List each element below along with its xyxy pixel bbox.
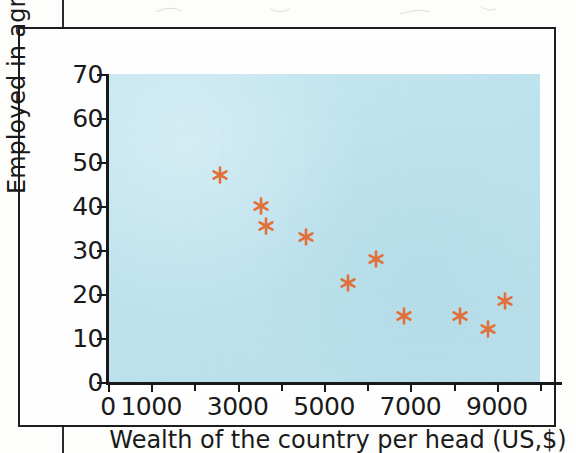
x-tick-mark-2000 [194,383,196,391]
plot-area [108,74,540,382]
x-tick-mark-9000 [497,383,499,392]
data-point [257,217,275,235]
x-tick-label-5000: 5000 [293,392,355,421]
y-tick-label: 60 [72,104,103,133]
x-tick-label-9000: 9000 [466,392,528,421]
x-axis-title: Wealth of the country per head (US,$) [108,426,568,453]
page-pencil-marks [150,0,550,18]
data-point [339,274,357,292]
y-axis-line [106,74,109,383]
x-tick-mark-5000 [324,383,326,392]
x-axis-line [106,382,562,385]
data-point [297,228,315,246]
data-point [451,307,469,325]
x-tick-mark-4000 [281,383,283,391]
data-point [496,292,514,310]
x-tick-mark-3000 [238,383,240,392]
x-tick-mark-0 [108,383,110,392]
y-tick-label: 20 [72,280,103,309]
x-tick-label-3000: 3000 [207,392,269,421]
y-tick-label: 50 [72,148,103,177]
x-tick-mark-1000 [151,383,153,392]
data-point [252,197,270,215]
data-point [211,166,229,184]
x-tick-mark-6000 [367,383,369,391]
y-tick-label: 30 [72,236,103,265]
data-point [367,250,385,268]
data-point [479,320,497,338]
chart-axes: 010203040506070 010003000500070009000 Em… [108,74,540,382]
y-tick-label: 70 [72,60,103,89]
x-tick-mark-8000 [454,383,456,391]
x-tick-label-0: 0 [100,392,115,421]
x-tick-label-1000: 1000 [120,392,182,421]
x-tick-mark-10000 [540,383,542,391]
y-tick-label: 10 [72,324,103,353]
data-point [395,307,413,325]
y-tick-label: 40 [72,192,103,221]
y-axis-title: Employed in agriculture (%) [3,0,31,194]
paper-texture-overlay [108,74,540,382]
x-tick-label-7000: 7000 [380,392,442,421]
figure-frame: 010203040506070 010003000500070009000 Em… [18,27,556,427]
x-tick-mark-7000 [410,383,412,392]
